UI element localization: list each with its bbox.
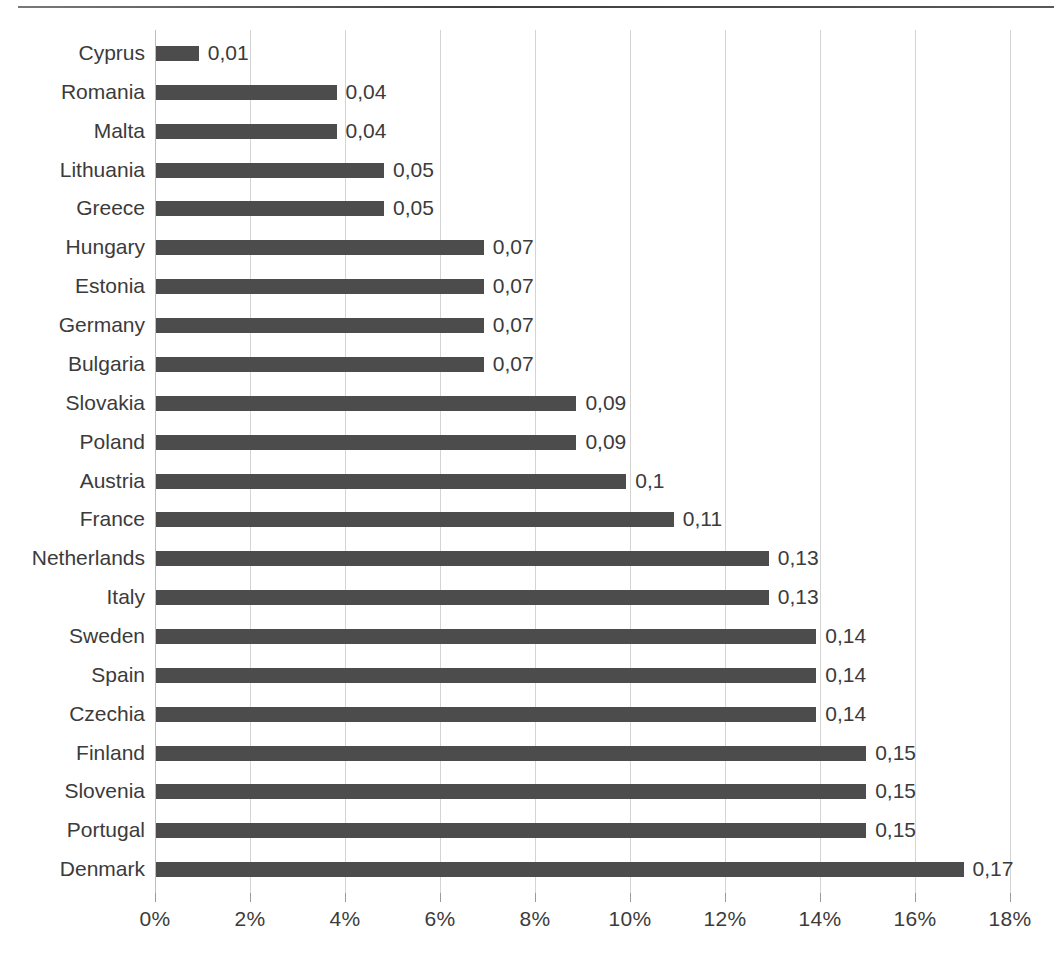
bar-row[interactable]: Poland0,09 (0, 423, 1062, 461)
value-label: 0,04 (346, 73, 387, 111)
bar-row[interactable]: Romania0,04 (0, 73, 1062, 111)
tick-mark-18% (1010, 893, 1011, 902)
bar[interactable] (156, 512, 674, 527)
category-label: Slovenia (0, 772, 145, 810)
bar[interactable] (156, 629, 816, 644)
category-label: Poland (0, 423, 145, 461)
tick-mark-10% (630, 893, 631, 902)
bar[interactable] (156, 240, 484, 255)
bar[interactable] (156, 551, 769, 566)
x-tick-label: 10% (585, 907, 675, 931)
category-label: Denmark (0, 850, 145, 888)
x-tick-label: 14% (775, 907, 865, 931)
tick-mark-6% (440, 893, 441, 902)
bar-row[interactable]: Bulgaria0,07 (0, 345, 1062, 383)
bar-row[interactable]: Estonia0,07 (0, 267, 1062, 305)
category-label: Cyprus (0, 34, 145, 72)
category-label: Finland (0, 734, 145, 772)
bar-row[interactable]: Czechia0,14 (0, 695, 1062, 733)
bar[interactable] (156, 357, 484, 372)
x-tick-label: 4% (300, 907, 390, 931)
bar[interactable] (156, 668, 816, 683)
tick-mark-0% (155, 893, 156, 902)
value-label: 0,07 (493, 306, 534, 344)
x-tick-label: 18% (965, 907, 1055, 931)
value-label: 0,01 (208, 34, 249, 72)
value-label: 0,07 (493, 228, 534, 266)
category-label: Lithuania (0, 151, 145, 189)
value-label: 0,05 (393, 189, 434, 227)
category-label: Estonia (0, 267, 145, 305)
bar[interactable] (156, 707, 816, 722)
bar-row[interactable]: Spain0,14 (0, 656, 1062, 694)
bar[interactable] (156, 435, 576, 450)
tick-mark-16% (915, 893, 916, 902)
bar[interactable] (156, 590, 769, 605)
category-label: Bulgaria (0, 345, 145, 383)
category-label: Romania (0, 73, 145, 111)
bar-row[interactable]: Portugal0,15 (0, 811, 1062, 849)
value-label: 0,15 (875, 734, 916, 772)
category-label: Greece (0, 189, 145, 227)
value-label: 0,09 (585, 384, 626, 422)
value-label: 0,09 (585, 423, 626, 461)
bar[interactable] (156, 746, 866, 761)
value-label: 0,04 (346, 112, 387, 150)
x-tick-label: 2% (205, 907, 295, 931)
bar-row[interactable]: Greece0,05 (0, 189, 1062, 227)
bar[interactable] (156, 85, 337, 100)
value-label: 0,17 (973, 850, 1014, 888)
bar[interactable] (156, 201, 384, 216)
bar-row[interactable]: Denmark0,17 (0, 850, 1062, 888)
bar[interactable] (156, 163, 384, 178)
tick-mark-2% (250, 893, 251, 902)
bar[interactable] (156, 862, 964, 877)
category-label: Italy (0, 578, 145, 616)
bar-row[interactable]: Austria0,1 (0, 462, 1062, 500)
bar-row[interactable]: Italy0,13 (0, 578, 1062, 616)
x-tick-label: 16% (870, 907, 960, 931)
bar-row[interactable]: Netherlands0,13 (0, 539, 1062, 577)
bar[interactable] (156, 784, 866, 799)
value-label: 0,15 (875, 811, 916, 849)
category-label: Netherlands (0, 539, 145, 577)
bar-row[interactable]: Finland0,15 (0, 734, 1062, 772)
value-label: 0,14 (825, 656, 866, 694)
value-label: 0,14 (825, 617, 866, 655)
x-tick-label: 0% (110, 907, 200, 931)
horizontal-bar-chart: Cyprus0,01Romania0,04Malta0,04Lithuania0… (0, 0, 1062, 974)
category-label: Portugal (0, 811, 145, 849)
bar-row[interactable]: France0,11 (0, 500, 1062, 538)
x-tick-label: 6% (395, 907, 485, 931)
bar-row[interactable]: Cyprus0,01 (0, 34, 1062, 72)
category-label: Germany (0, 306, 145, 344)
bar-row[interactable]: Sweden0,14 (0, 617, 1062, 655)
bar-row[interactable]: Malta0,04 (0, 112, 1062, 150)
category-label: Sweden (0, 617, 145, 655)
bar[interactable] (156, 279, 484, 294)
tick-mark-8% (535, 893, 536, 902)
bar[interactable] (156, 318, 484, 333)
category-label: Malta (0, 112, 145, 150)
bar[interactable] (156, 823, 866, 838)
bar[interactable] (156, 124, 337, 139)
x-tick-label: 8% (490, 907, 580, 931)
category-label: Austria (0, 462, 145, 500)
category-label: Czechia (0, 695, 145, 733)
value-label: 0,13 (778, 539, 819, 577)
value-label: 0,13 (778, 578, 819, 616)
bar[interactable] (156, 474, 626, 489)
category-label: France (0, 500, 145, 538)
bar-row[interactable]: Hungary0,07 (0, 228, 1062, 266)
category-label: Slovakia (0, 384, 145, 422)
bar[interactable] (156, 46, 199, 61)
bar[interactable] (156, 396, 576, 411)
category-label: Spain (0, 656, 145, 694)
tick-mark-12% (725, 893, 726, 902)
bar-row[interactable]: Slovenia0,15 (0, 772, 1062, 810)
bar-row[interactable]: Lithuania0,05 (0, 151, 1062, 189)
tick-mark-14% (820, 893, 821, 902)
bar-row[interactable]: Slovakia0,09 (0, 384, 1062, 422)
value-label: 0,15 (875, 772, 916, 810)
bar-row[interactable]: Germany0,07 (0, 306, 1062, 344)
